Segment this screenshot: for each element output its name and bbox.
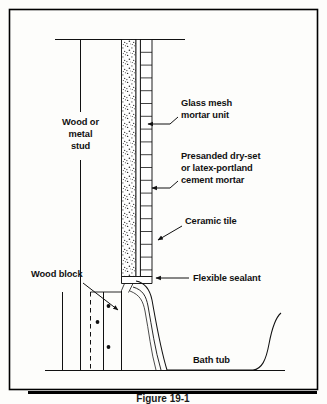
svg-text:cement mortar: cement mortar [181,175,245,185]
svg-text:Presanded dry-set: Presanded dry-set [181,151,260,161]
svg-text:or latex-portland: or latex-portland [181,163,253,173]
ceramic-tile-layer [140,40,152,277]
diagram-canvas: Wood or metal stud Glass mesh mortar uni… [0,0,327,404]
fastener-dot [96,320,100,324]
fastener-dot [107,304,111,308]
leader-ceramic-tile [158,226,182,240]
leader-wood-block [83,283,118,310]
label-ceramic-tile: Ceramic tile [185,216,237,226]
label-flexible-sealant: Flexible sealant [193,273,261,283]
fastener-dot [107,345,111,349]
tub-far-wall [253,313,281,370]
svg-text:stud: stud [71,141,91,151]
label-presanded-mortar: Presanded dry-set or latex-portland ceme… [181,151,260,185]
figure-container: Wood or metal stud Glass mesh mortar uni… [0,0,327,404]
glass-mesh-mortar-unit [122,40,137,277]
section-drawing: Wood or metal stud Glass mesh mortar uni… [0,0,327,404]
svg-text:mortar unit: mortar unit [181,110,229,120]
figure-caption: Figure 19-1 [136,393,190,404]
label-wood-block: Wood block [31,269,83,279]
flexible-sealant [122,277,153,293]
label-glass-mesh-mortar-unit: Glass mesh mortar unit [181,98,233,120]
label-wood-or-metal-stud: Wood or metal stud [62,117,99,151]
svg-text:Wood or: Wood or [62,117,99,127]
svg-text:metal: metal [69,129,93,139]
leader-elbows [170,117,178,188]
presanded-mortar-layer [136,40,140,277]
svg-text:Glass mesh: Glass mesh [181,98,233,108]
wood-block [91,291,122,371]
label-bath-tub: Bath tub [193,355,230,365]
